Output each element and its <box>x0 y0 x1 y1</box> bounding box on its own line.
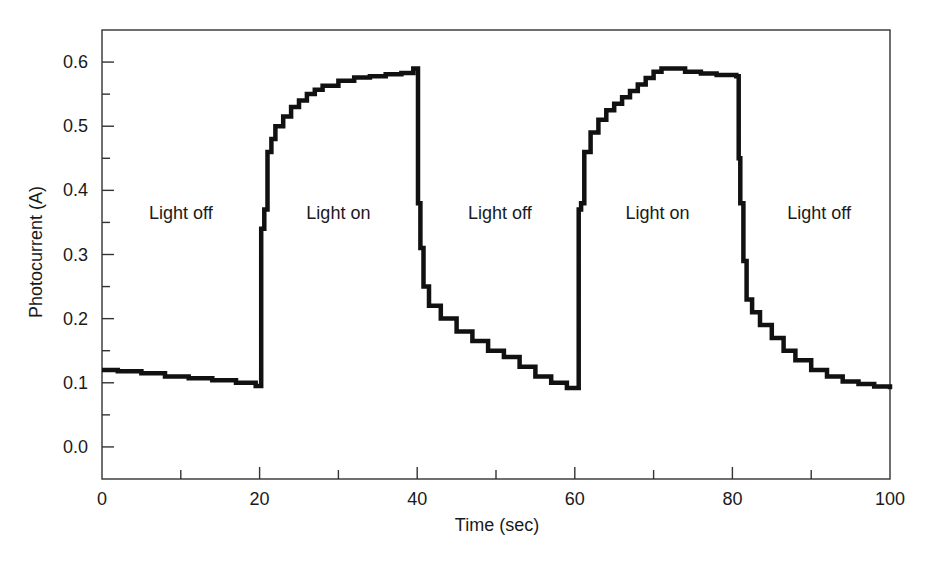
y-tick-label: 0.6 <box>63 52 88 72</box>
photocurrent-chart: 0204060801000.00.10.20.30.40.50.6 Light … <box>0 0 931 562</box>
axis-tick-labels: 0204060801000.00.10.20.30.40.50.6 <box>63 52 905 509</box>
x-axis-title: Time (sec) <box>455 515 539 535</box>
y-tick-label: 0.4 <box>63 180 88 200</box>
photocurrent-line <box>102 69 890 390</box>
axis-ticks <box>102 62 811 479</box>
x-tick-label: 40 <box>407 489 427 509</box>
annotation-light-on: Light on <box>306 203 370 223</box>
y-tick-label: 0.1 <box>63 373 88 393</box>
x-tick-label: 60 <box>565 489 585 509</box>
annotation-light-off: Light off <box>149 203 214 223</box>
y-tick-label: 0.3 <box>63 245 88 265</box>
y-axis-title: Photocurrent (A) <box>26 186 46 318</box>
x-tick-label: 80 <box>722 489 742 509</box>
y-tick-label: 0.5 <box>63 116 88 136</box>
x-tick-label: 0 <box>97 489 107 509</box>
x-tick-label: 20 <box>250 489 270 509</box>
y-tick-label: 0.0 <box>63 437 88 457</box>
annotation-light-off: Light off <box>468 203 533 223</box>
plot-frame <box>102 30 890 479</box>
y-tick-label: 0.2 <box>63 309 88 329</box>
annotation-light-off: Light off <box>787 203 852 223</box>
annotation-light-on: Light on <box>626 203 690 223</box>
light-state-annotations: Light offLight onLight offLight onLight … <box>149 203 852 223</box>
x-tick-label: 100 <box>875 489 905 509</box>
